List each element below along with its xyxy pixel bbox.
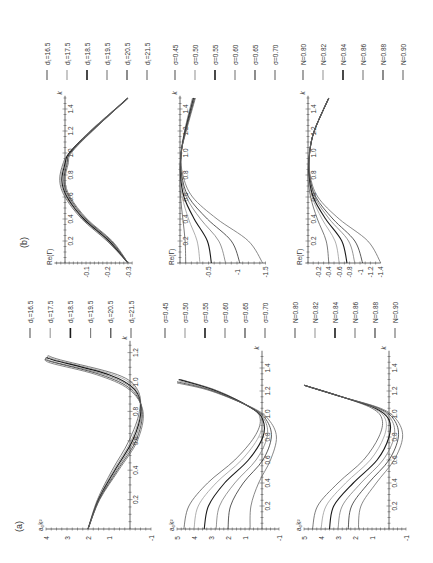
legend-label: d₁=18.5 [67, 300, 74, 323]
figure-canvas: (a) (b) 0.20.40.60.81.01.2k-11234a₀k²d₁=… [0, 0, 433, 563]
legend-label: d₁=19.5 [104, 42, 111, 65]
legend-label: σ=0.50 [182, 302, 189, 323]
panel-labels: (a) (b) [14, 237, 29, 532]
value-tick-label: -1.4 [377, 266, 384, 278]
k-axis-title: k [121, 335, 128, 339]
value-axis-title: a₀k² [295, 518, 302, 531]
value-tick-label: -0.3 [125, 266, 132, 278]
value-axis-title: Re(Γ) [296, 249, 304, 265]
k-tick-label: 1.4 [67, 104, 74, 113]
subplot-a-2: 0.20.40.60.81.01.21.4k-112345a₀k²σ=0.45σ… [162, 302, 283, 541]
legend: σ=0.45σ=0.50σ=0.55σ=0.60σ=0.65σ=0.70 [172, 44, 279, 80]
legend-label: σ=0.60 [222, 302, 229, 323]
panel-label-b: (b) [19, 237, 29, 248]
value-tick-label: 3 [335, 536, 342, 540]
value-tick-label: -1.2 [367, 266, 374, 278]
legend-label: d₁=20.5 [124, 42, 131, 65]
k-tick-label: 0.4 [67, 214, 74, 223]
k-tick-label: 1.0 [264, 409, 271, 418]
legend-label: σ=0.55 [202, 302, 209, 323]
value-tick-label: 1 [106, 536, 113, 540]
series-curve [180, 380, 262, 530]
k-axis-title: k [299, 90, 306, 94]
value-tick-label: -1 [148, 535, 155, 541]
legend-label: N=0.88 [372, 301, 379, 323]
legend-label: σ=0.55 [212, 44, 219, 65]
k-tick-label: 0.4 [264, 478, 271, 487]
series-curve [181, 98, 240, 263]
value-axis-title: Re(Γ) [168, 249, 176, 265]
legend-label: d₁=17.5 [47, 300, 54, 323]
k-axis-title: k [253, 345, 260, 349]
k-tick-label: 0.4 [132, 465, 139, 474]
series-curve [304, 385, 399, 529]
legend-label: σ=0.65 [252, 44, 259, 65]
value-tick-label: 3 [208, 536, 215, 540]
value-tick-label: 5 [301, 536, 308, 540]
subplot-b-3: 0.20.40.60.81.01.21.4k-0.2-0.4-0.6-0.8-1… [296, 43, 406, 277]
series-curve [309, 98, 381, 263]
value-tick-label: -1 [276, 535, 283, 541]
value-axis-title: Re(Γ) [46, 249, 54, 265]
value-tick-label: 2 [352, 536, 359, 540]
k-tick-label: 0.2 [391, 501, 398, 510]
value-tick-label: -0.2 [104, 266, 111, 278]
legend-label: N=0.88 [380, 43, 387, 65]
series-curve [179, 380, 265, 530]
legend-label: σ=0.60 [232, 44, 239, 65]
value-tick-label: 1 [242, 536, 249, 540]
k-tick-label: 1.0 [310, 148, 317, 157]
series-curve [179, 381, 268, 529]
value-tick-label: -0.5 [205, 266, 212, 278]
series-curve [47, 357, 141, 529]
series-curve [180, 380, 260, 530]
k-tick-label: 1.4 [182, 104, 189, 113]
legend-label: d₁=21.5 [144, 42, 151, 65]
legend-label: d₁=19.5 [87, 300, 94, 323]
legend-label: N=0.90 [400, 43, 407, 65]
k-tick-label: 1.4 [310, 104, 317, 113]
value-axis-title: a₀k² [37, 518, 44, 531]
k-tick-label: 1.2 [264, 386, 271, 395]
value-tick-label: 5 [174, 536, 181, 540]
value-tick-label: 3 [64, 536, 71, 540]
legend-label: N=0.86 [352, 301, 359, 323]
k-tick-label: 0.2 [67, 236, 74, 245]
legend-label: d₁=21.5 [128, 300, 135, 323]
legend-label: σ=0.65 [242, 302, 249, 323]
series-curve [48, 356, 140, 529]
legend-label: d₁=17.5 [64, 42, 71, 65]
k-tick-label: 0.8 [67, 170, 74, 179]
subplot-a-1: 0.20.40.60.81.01.2k-11234a₀k²d₁=16.5d₁=1… [27, 300, 155, 541]
k-tick-label: 0.4 [391, 478, 398, 487]
value-tick-label: 4 [43, 536, 50, 540]
value-tick-label: -0.6 [336, 266, 343, 278]
legend: d₁=16.5d₁=17.5d₁=18.5d₁=19.5d₁=20.5d₁=21… [44, 42, 151, 80]
k-tick-label: 0.8 [132, 407, 139, 416]
k-tick-label: 1.2 [67, 126, 74, 135]
value-tick-label: -1.5 [262, 266, 269, 278]
k-axis-title: k [171, 90, 178, 94]
legend: σ=0.45σ=0.50σ=0.55σ=0.60σ=0.65σ=0.70 [162, 302, 269, 338]
legend-label: N=0.82 [312, 301, 319, 323]
value-tick-label: -0.2 [315, 266, 322, 278]
legend-label: σ=0.70 [262, 302, 269, 323]
series-curve [47, 356, 141, 529]
value-tick-label: -1 [403, 535, 410, 541]
k-tick-label: 1.2 [391, 386, 398, 395]
legend: N=0.80N=0.82N=0.84N=0.86N=0.88N=0.90 [300, 43, 407, 80]
k-tick-label: 1.0 [182, 148, 189, 157]
k-tick-label: 0.2 [264, 501, 271, 510]
series-curve [181, 98, 263, 263]
legend-label: σ=0.45 [162, 302, 169, 323]
value-tick-label: -0.1 [83, 266, 90, 278]
value-tick-label: -1 [357, 269, 364, 275]
legend-label: N=0.86 [360, 43, 367, 65]
series-curve [304, 385, 403, 529]
k-tick-label: 0.2 [310, 236, 317, 245]
value-tick-label: -1 [234, 269, 241, 275]
legend-label: d₁=16.5 [44, 42, 51, 65]
rotated-figure: (a) (b) 0.20.40.60.81.01.2k-11234a₀k²d₁=… [0, 0, 433, 563]
subplot-b-2: 0.20.40.60.81.01.21.4k-0.5-1-1.5Re(Γ)σ=0… [168, 44, 278, 277]
subplot-a-3: 0.20.40.60.81.01.21.4k-112345a₀k²N=0.80N… [292, 301, 410, 540]
